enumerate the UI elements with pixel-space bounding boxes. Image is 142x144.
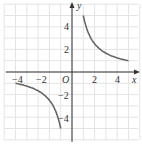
y-axis-arrow-icon <box>70 2 75 8</box>
x-axis-label: x <box>132 75 136 85</box>
x-tick-label: 2 <box>92 75 97 85</box>
x-tick-label: −4 <box>12 75 23 85</box>
plot-area <box>0 0 142 144</box>
y-axis-label: y <box>77 1 81 11</box>
x-tick-label: 4 <box>115 75 120 85</box>
y-tick-label: −2 <box>58 91 69 101</box>
x-tick-label: −2 <box>36 75 47 85</box>
y-tick-label: 2 <box>64 45 69 55</box>
y-tick-label: −4 <box>58 114 69 124</box>
origin-label: O <box>62 75 69 85</box>
y-tick-label: 4 <box>64 22 69 32</box>
chart: y x O −4 −2 2 4 4 2 −2 −4 <box>0 0 142 144</box>
